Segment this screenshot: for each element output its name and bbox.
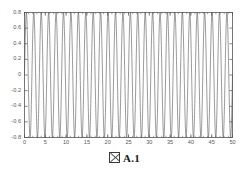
plot-area: -0.8-0.6-0.4-0.200.20.40.60.8 0510152025…: [0, 0, 249, 150]
x-tick-label: 10: [63, 140, 69, 146]
figure-caption: 図A.1: [0, 152, 249, 164]
y-tick-label: -0.2: [0, 88, 21, 94]
x-tick-label: 25: [125, 140, 131, 146]
x-tick-label: 50: [229, 140, 235, 146]
y-tick-label: -0.6: [0, 119, 21, 125]
x-tick-label: 40: [188, 140, 194, 146]
x-tick-label: 20: [105, 140, 111, 146]
y-tick-label: 0.8: [0, 10, 21, 16]
y-tick-label: -0.8: [0, 135, 21, 141]
x-tick-label: 5: [44, 140, 47, 146]
x-tick-label: 45: [209, 140, 215, 146]
figure-caption-number: A.1: [123, 152, 140, 164]
y-tick-label: 0.4: [0, 41, 21, 47]
chart-canvas: [0, 0, 249, 150]
y-tick-label: -0.4: [0, 103, 21, 109]
data-series-line: [25, 13, 233, 138]
y-tick-label: 0: [0, 72, 21, 78]
x-tick-label: 30: [146, 140, 152, 146]
y-tick-label: 0.2: [0, 57, 21, 63]
figure-container: -0.8-0.6-0.4-0.200.20.40.60.8 0510152025…: [0, 0, 249, 176]
x-tick-label: 0: [23, 140, 26, 146]
figure-symbol-glyph: 図: [109, 152, 120, 163]
x-tick-label: 35: [167, 140, 173, 146]
x-tick-label: 15: [84, 140, 90, 146]
y-tick-label: 0.6: [0, 25, 21, 31]
